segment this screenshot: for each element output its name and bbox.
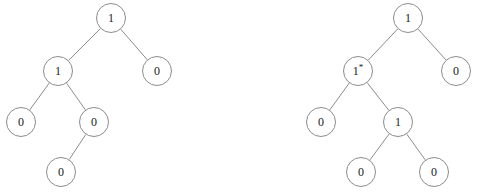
tree-node-r3: 0 <box>306 107 336 137</box>
tree-node-l4: 0 <box>79 107 109 137</box>
tree-node-r6: 0 <box>419 157 449 187</box>
tree-node-label: 1 <box>395 116 401 128</box>
tree-node-r1: 1* <box>343 56 373 86</box>
tree-node-label: 1 <box>108 12 114 24</box>
tree-node-l1: 1 <box>43 56 73 86</box>
tree-node-l5: 0 <box>46 157 76 187</box>
tree-node-r5: 0 <box>346 157 376 187</box>
tree-nodes-layer: 11000011*00100 <box>0 0 478 192</box>
tree-node-label: 0 <box>91 116 97 128</box>
tree-node-label: 0 <box>431 166 437 178</box>
tree-node-label: 0 <box>154 65 160 77</box>
tree-node-r2: 0 <box>441 56 471 86</box>
tree-node-label: 0 <box>318 116 324 128</box>
tree-node-label: 1 <box>405 12 411 24</box>
tree-node-label: 0 <box>358 166 364 178</box>
tree-node-l0: 1 <box>96 3 126 33</box>
tree-node-label: 1* <box>353 65 364 77</box>
tree-node-label: 0 <box>18 116 24 128</box>
binary-tree-figure: 11000011*00100 <box>0 0 478 192</box>
tree-node-label: 1 <box>55 65 61 77</box>
tree-node-l3: 0 <box>6 107 36 137</box>
tree-node-r4: 1 <box>383 107 413 137</box>
marked-node-asterisk: * <box>359 62 364 72</box>
tree-node-label: 0 <box>58 166 64 178</box>
tree-node-r0: 1 <box>393 3 423 33</box>
tree-node-l2: 0 <box>142 56 172 86</box>
tree-node-label: 0 <box>453 65 459 77</box>
